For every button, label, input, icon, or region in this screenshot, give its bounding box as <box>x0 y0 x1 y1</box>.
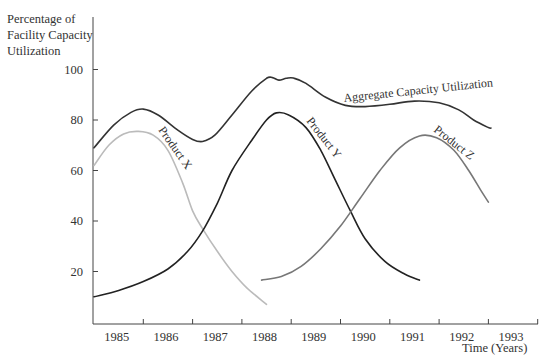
x-tick-label: 1988 <box>252 330 277 344</box>
y-tick-label: 60 <box>71 164 84 178</box>
series-line-product-y <box>94 113 419 297</box>
y-tick-label: 100 <box>64 63 83 77</box>
series-layer <box>94 77 491 304</box>
x-tick-label: 1989 <box>301 330 326 344</box>
y-tick-label: 20 <box>71 265 84 279</box>
y-tick-label: 80 <box>71 113 84 127</box>
series-line-product-z <box>262 135 489 280</box>
x-tick-label: 1991 <box>400 330 425 344</box>
x-tick-label: 1986 <box>153 330 178 344</box>
y-axis: 20406080100 <box>64 17 98 324</box>
y-tick-label: 40 <box>71 214 84 228</box>
x-tick-label: 1987 <box>203 330 228 344</box>
capacity-utilization-chart: 20406080100 1985198619871988198919901991… <box>0 0 543 361</box>
x-tick-label: 1985 <box>104 330 129 344</box>
x-axis-title: Time (Years) <box>462 341 527 356</box>
x-tick-label: 1990 <box>351 330 376 344</box>
series-label-product-z: Product Z <box>431 122 477 162</box>
series-label-product-y: Product Y <box>304 114 345 161</box>
